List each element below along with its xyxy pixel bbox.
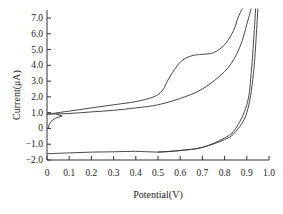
y-tick-label: 5.0 [31, 45, 43, 55]
cyclic-voltammogram-chart: 7.06.05.04.03.02.01.00−1.0−2.0 00.10.20.… [0, 0, 283, 214]
scan-direction-arrow-icon [56, 114, 62, 118]
x-tick-label: 0.3 [108, 168, 120, 178]
cv-curves [47, 9, 258, 154]
y-tick-label: 3.0 [31, 76, 43, 86]
x-tick-label: 0.8 [219, 168, 231, 178]
cv-curve [47, 9, 258, 154]
x-tick-label: 0.4 [130, 168, 142, 178]
y-tick-label: 2.0 [31, 92, 43, 102]
x-axis-label: Potential(V) [133, 189, 182, 201]
y-tick-label: 4.0 [31, 60, 43, 70]
cv-curve [47, 9, 242, 115]
y-tick-label: −2.0 [26, 155, 43, 165]
y-tick-label: 1.0 [31, 108, 43, 118]
x-tick-label: 0.9 [241, 168, 253, 178]
cv-curve [158, 9, 256, 153]
y-tick-label: 6.0 [31, 29, 43, 39]
x-tick-label: 0 [45, 168, 50, 178]
y-tick-label: −1.0 [26, 139, 43, 149]
initial-hook-curve [48, 118, 56, 129]
x-tick-label: 0.6 [174, 168, 186, 178]
y-tick-label: 0 [38, 123, 43, 133]
x-tick-label: 0.1 [63, 168, 75, 178]
y-tick-label: 7.0 [31, 13, 43, 23]
x-tick-label: 0.5 [152, 168, 164, 178]
x-tick-label: 0.2 [85, 168, 97, 178]
y-axis-label: Current(μA) [11, 70, 23, 120]
x-tick-label: 0.7 [196, 168, 208, 178]
x-tick-label: 1.0 [263, 168, 275, 178]
x-ticks: 00.10.20.30.40.50.60.70.80.91.0 [45, 156, 276, 178]
